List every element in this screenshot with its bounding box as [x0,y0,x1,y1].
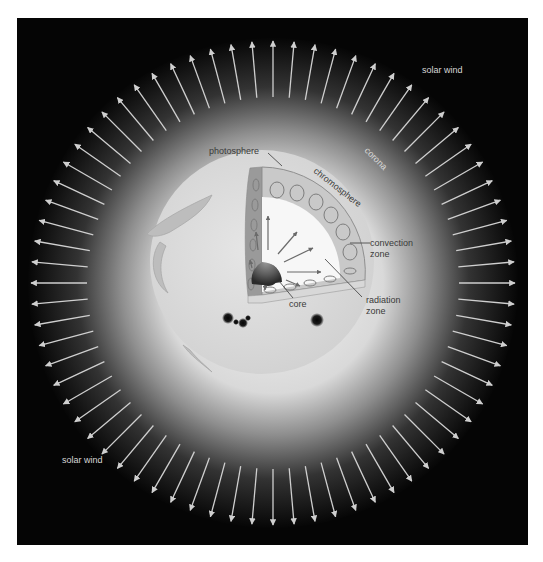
label-solar-wind-top: solar wind [422,65,463,75]
label-convection-zone-line2: zone [370,249,390,259]
label-radiation-zone-line2: zone [366,306,386,316]
sun-structure-diagram: photosphere chromosphere corona convecti… [0,0,543,562]
label-photosphere: photosphere [209,146,259,156]
label-radiation-zone-line1: radiation [366,295,401,305]
label-convection-zone-line1: convection [370,238,413,248]
label-solar-wind-bottom: solar wind [62,455,103,465]
label-core: core [289,299,307,309]
